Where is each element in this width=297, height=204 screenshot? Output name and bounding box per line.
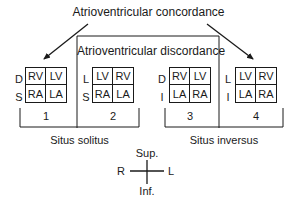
box-3-cell-bottom-right: RA xyxy=(190,85,210,102)
orientation-left-label: L xyxy=(168,165,174,177)
box-3-cell-bottom-left: LA xyxy=(170,85,190,102)
box-3-cell-top-left: RV xyxy=(170,68,190,85)
box-4-cell-bottom-left: LA xyxy=(236,85,256,102)
box-2-bottom-label: S xyxy=(81,91,91,103)
box-1-number: 1 xyxy=(40,110,52,122)
box-4-bottom-label: I xyxy=(223,91,233,103)
box-3-top-label: D xyxy=(157,73,167,85)
box-1-cell-bottom-left: RA xyxy=(26,85,46,102)
box-2-cell-bottom-left: RA xyxy=(93,85,113,102)
situs-inversus-bracket xyxy=(165,108,283,127)
chamber-box-4: LV RV LA RA xyxy=(235,67,277,103)
orientation-right-label: R xyxy=(117,165,125,177)
chamber-box-2: LV RV RA LA xyxy=(92,67,134,103)
situs-inversus-label: Situs inversus xyxy=(165,134,283,146)
box-4-number: 4 xyxy=(250,110,262,122)
box-3-cell-top-right: LV xyxy=(190,68,210,85)
concordance-label: Atrioventricular concordance xyxy=(0,5,297,19)
situs-solitus-bracket xyxy=(20,108,139,127)
chamber-box-3: RV LV LA RA xyxy=(169,67,211,103)
box-2-cell-top-left: LV xyxy=(93,68,113,85)
box-1-bottom-label: S xyxy=(14,91,24,103)
box-2-cell-bottom-right: LA xyxy=(113,85,133,102)
orientation-inferior-label: Inf. xyxy=(127,185,167,197)
box-4-cell-top-left: LV xyxy=(236,68,256,85)
box-1-top-label: D xyxy=(14,73,24,85)
box-3-number: 3 xyxy=(184,110,196,122)
discordance-label: Atrioventricular discordance xyxy=(77,44,219,58)
orientation-superior-label: Sup. xyxy=(127,147,167,159)
box-4-top-label: L xyxy=(223,73,233,85)
box-4-cell-bottom-right: RA xyxy=(256,85,276,102)
box-2-top-label: L xyxy=(81,73,91,85)
box-3-bottom-label: I xyxy=(157,91,167,103)
chamber-box-1: RV LV RA LA xyxy=(25,67,67,103)
box-1-cell-top-left: RV xyxy=(26,68,46,85)
box-1-cell-top-right: LV xyxy=(46,68,66,85)
box-4-cell-top-right: RV xyxy=(256,68,276,85)
situs-solitus-label: Situs solitus xyxy=(20,134,139,146)
box-1-cell-bottom-right: LA xyxy=(46,85,66,102)
box-2-number: 2 xyxy=(107,110,119,122)
box-2-cell-top-right: RV xyxy=(113,68,133,85)
